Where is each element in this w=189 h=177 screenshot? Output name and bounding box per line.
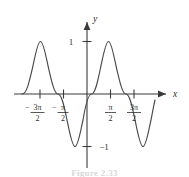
x-axis-arrowhead — [158, 91, 166, 98]
x-tick-label-neg-3pi-2: − 3π 2 — [25, 103, 45, 123]
y-tick-label-neg-one: −1 — [99, 142, 109, 152]
figure-caption: Figure 2.33 — [0, 168, 189, 177]
x-tick-label-neg-3pi-2-sign: − — [25, 103, 30, 112]
x-tick-label-neg-3pi-2-numerator: 3π — [33, 103, 41, 112]
x-tick-label-neg-pi-2-denominator: 2 — [61, 114, 65, 123]
y-axis-label: y — [92, 14, 98, 24]
x-tick-label-pi-2-numerator: π — [108, 103, 112, 112]
x-tick-label-neg-pi-2-sign: − — [52, 103, 57, 112]
x-tick-label-neg-3pi-2-denominator: 2 — [36, 114, 40, 123]
y-tick-label-one: 1 — [69, 37, 74, 47]
x-axis-label: x — [172, 89, 178, 99]
x-tick-label-pi-2-denominator: 2 — [109, 114, 113, 123]
y-axis-arrowhead — [84, 22, 91, 30]
sine-wave-plot: y x 1 −1 − 3π 2 − π 2 π 2 3π 2 — [0, 0, 189, 177]
x-tick-label-neg-pi-2-numerator: π — [61, 103, 65, 112]
x-tick-label-3pi-2-numerator: 3π — [130, 103, 138, 112]
x-tick-label-3pi-2-denominator: 2 — [132, 114, 136, 123]
figure-container: y x 1 −1 − 3π 2 − π 2 π 2 3π 2 — [0, 0, 189, 177]
x-tick-label-pi-2: π 2 — [105, 103, 116, 123]
